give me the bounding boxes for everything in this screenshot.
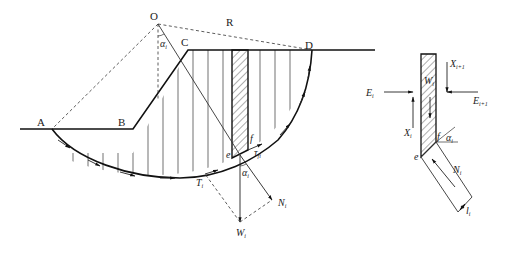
label-C: C [181,36,188,48]
label-N-i: Ni [452,164,462,176]
ground-profile [20,50,375,129]
label-f-slice: f [437,131,441,142]
label-A: A [37,116,45,128]
radius-to-slice [158,24,240,155]
label-alpha-i: αi [446,132,453,144]
slope-stability-diagram: O R A B C D αi αi τfi e f Ti Ni Wi [0,0,506,253]
label-f: f [250,133,254,144]
label-X-i: Xi [403,127,412,139]
label-W: Wi [236,227,246,239]
label-E-i: Ei [365,87,374,99]
label-alpha-top: αi [160,38,167,50]
label-E-i1: Ei+1 [472,95,488,107]
label-e: e [226,149,231,160]
radius-OA [52,24,158,129]
label-R: R [226,16,234,28]
slice-free-body: Ei Xi Xi+1 Ei+1 Wi Ni li αi e f [365,54,488,217]
label-alpha-base: αi [242,167,249,179]
label-O: O [150,10,158,22]
label-l-i: li [466,205,471,217]
label-T: Ti [196,177,204,189]
label-tau: τfi [254,147,261,159]
label-D: D [305,39,313,51]
label-B: B [118,116,125,128]
hatched-slice [232,50,248,158]
slice-lines [73,40,290,200]
label-X-i1: Xi+1 [449,58,465,70]
slice-body [421,54,436,157]
label-e-slice: e [414,151,419,162]
N-i-arrow [432,159,455,187]
slope-figure: O R A B C D αi αi τfi e f Ti Ni Wi [20,10,375,239]
slip-surface [52,50,312,178]
label-N: Ni [277,197,287,209]
